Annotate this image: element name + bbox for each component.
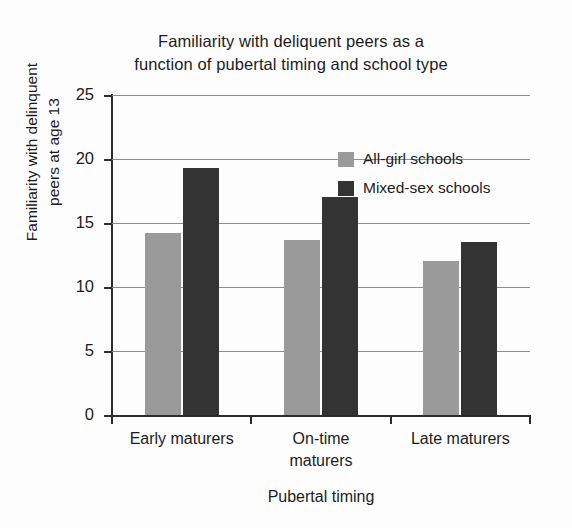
bar <box>183 168 219 415</box>
bar <box>461 242 497 415</box>
y-tick-label: 25 <box>34 85 94 104</box>
legend-label: All-girl schools <box>363 150 463 168</box>
x-tick-mark <box>111 415 113 424</box>
y-tick-label: 10 <box>34 277 94 296</box>
y-tick-mark <box>104 95 112 97</box>
y-tick-label: 20 <box>34 149 94 168</box>
x-tick-mark <box>250 415 252 424</box>
x-axis-title: Pubertal timing <box>112 488 530 506</box>
bar <box>284 240 320 415</box>
chart-legend: All-girl schoolsMixed-sex schools <box>338 148 491 206</box>
x-tick-mark <box>529 415 531 424</box>
legend-swatch <box>338 181 354 196</box>
legend-item: Mixed-sex schools <box>338 177 491 199</box>
x-tick-mark <box>390 415 392 424</box>
bar <box>423 261 459 415</box>
gridline <box>112 95 530 96</box>
y-tick-mark <box>104 351 112 353</box>
legend-item: All-girl schools <box>338 148 491 170</box>
chart-figure: Familiarity with deliquent peers as a fu… <box>0 0 572 528</box>
legend-label: Mixed-sex schools <box>363 179 491 197</box>
y-tick-mark <box>104 159 112 161</box>
bar <box>322 197 358 415</box>
y-tick-label: 5 <box>34 341 94 360</box>
y-tick-label: 15 <box>34 213 94 232</box>
legend-swatch <box>338 152 354 167</box>
plot-area <box>112 95 530 415</box>
gridline <box>112 223 530 224</box>
y-tick-label: 0 <box>34 405 94 424</box>
y-tick-mark <box>104 223 112 225</box>
chart-title: Familiarity with deliquent peers as a fu… <box>86 30 496 76</box>
bar <box>145 233 181 415</box>
gridline <box>112 415 530 417</box>
x-tick-label: Late maturers <box>375 428 545 450</box>
y-tick-mark <box>104 287 112 289</box>
